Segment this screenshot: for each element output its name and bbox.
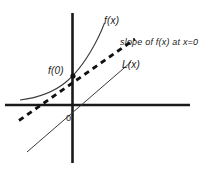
tangent-slope-label: slope of f(x) at x=0 — [120, 38, 198, 47]
f-of-zero-label: f(0) — [48, 66, 64, 76]
curve-fx-label: f(x) — [104, 16, 119, 26]
linear-function-label: L(x) — [122, 60, 140, 70]
origin-label: 0 — [66, 114, 71, 123]
linear-approximation-figure: f(x) slope of f(x) at x=0 L(x) f(0) 0 — [0, 0, 208, 173]
linear-function-line — [27, 62, 131, 152]
y-intercept-point — [70, 73, 75, 78]
